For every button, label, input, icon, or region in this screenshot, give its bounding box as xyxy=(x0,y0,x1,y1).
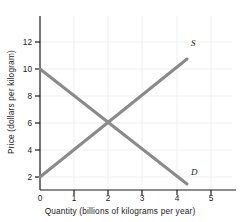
y-tick-marks xyxy=(35,42,40,177)
demand-curve-label: D xyxy=(191,167,198,177)
x-tick-label-5: 5 xyxy=(201,193,221,203)
y-axis-title: Price (dollars per kilogram) xyxy=(6,18,16,186)
gridlines xyxy=(40,16,232,190)
demand-curve xyxy=(40,69,187,184)
x-tick-label-0: 0 xyxy=(30,193,50,203)
x-tick-label-2: 2 xyxy=(98,193,118,203)
chart-plot-area xyxy=(0,0,240,222)
supply-curve xyxy=(40,59,187,177)
x-axis-title: Quantity (billions of kilograms per year… xyxy=(0,206,240,216)
x-tick-label-3: 3 xyxy=(132,193,152,203)
supply-curve-label: S xyxy=(191,38,196,48)
x-tick-label-4: 4 xyxy=(167,193,187,203)
supply-demand-chart: 2 4 6 8 10 12 0 1 2 3 4 5 S D Quantity (… xyxy=(0,0,240,222)
x-tick-label-1: 1 xyxy=(64,193,84,203)
y-axis-title-container: Price (dollars per kilogram) xyxy=(6,18,20,186)
